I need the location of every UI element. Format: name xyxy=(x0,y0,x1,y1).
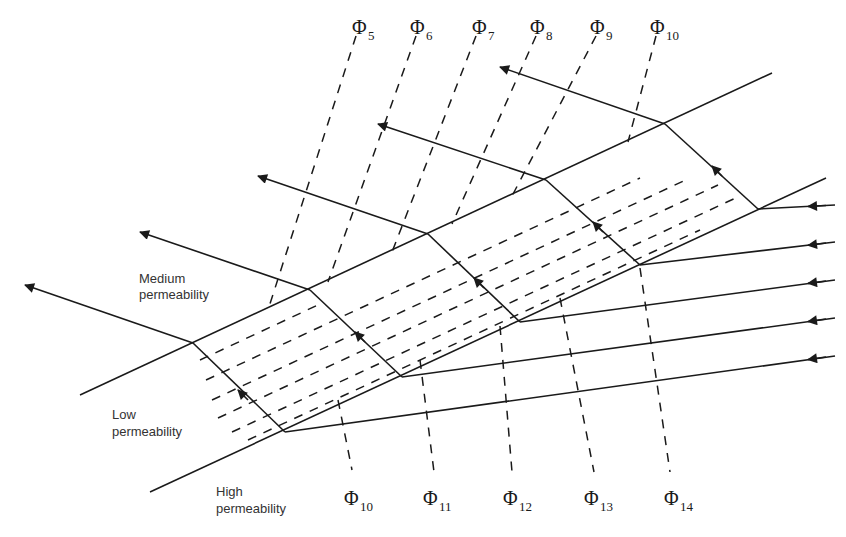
phi-label: Φ xyxy=(530,16,545,38)
zone-labels: Medium permeability Low permeability Hig… xyxy=(112,271,287,516)
phi-label: Φ xyxy=(410,16,425,38)
flow-lines-high-zone xyxy=(285,205,835,432)
zone-label-medium-line1: Medium xyxy=(139,271,185,286)
equipotentials-low-zone xyxy=(200,178,740,440)
zone-label-medium-line2: permeability xyxy=(139,287,210,302)
phi-subscript: 13 xyxy=(600,499,613,514)
phi-subscript: 12 xyxy=(519,499,532,514)
equipotentials-medium-zone xyxy=(268,36,656,310)
phi-label: Φ xyxy=(423,487,438,509)
phi-label: Φ xyxy=(650,16,665,38)
phi-subscript: 11 xyxy=(439,499,452,514)
phi-label: Φ xyxy=(503,487,518,509)
equipotentials-high-zone xyxy=(338,268,670,472)
phi-subscript: 7 xyxy=(488,28,495,43)
permeability-flow-diagram: Φ 5 Φ 6 Φ 7 Φ 8 Φ 9 Φ 10 Φ 10 Φ 11 Φ 12 … xyxy=(0,0,846,537)
phi-label: Φ xyxy=(472,16,487,38)
phi-subscript: 14 xyxy=(680,499,694,514)
flow-lines-medium-zone xyxy=(25,67,665,343)
phi-subscript: 10 xyxy=(360,499,373,514)
zone-label-low-line2: permeability xyxy=(112,424,183,439)
phi-subscript: 10 xyxy=(666,28,679,43)
phi-subscript: 5 xyxy=(368,28,375,43)
phi-label: Φ xyxy=(584,487,599,509)
potential-labels-bottom: Φ 10 Φ 11 Φ 12 Φ 13 Φ 14 xyxy=(344,487,694,514)
phi-subscript: 8 xyxy=(546,28,553,43)
zone-label-low-line1: Low xyxy=(112,407,136,422)
zone-label-high-line1: High xyxy=(216,484,243,499)
zone-label-high-line2: permeability xyxy=(216,501,287,516)
phi-label: Φ xyxy=(590,16,605,38)
potential-labels-top: Φ 5 Φ 6 Φ 7 Φ 8 Φ 9 Φ 10 xyxy=(352,16,679,43)
phi-subscript: 9 xyxy=(606,28,613,43)
phi-label: Φ xyxy=(344,487,359,509)
phi-subscript: 6 xyxy=(426,28,433,43)
phi-label: Φ xyxy=(664,487,679,509)
boundary-low-high xyxy=(150,178,826,492)
phi-label: Φ xyxy=(352,16,367,38)
